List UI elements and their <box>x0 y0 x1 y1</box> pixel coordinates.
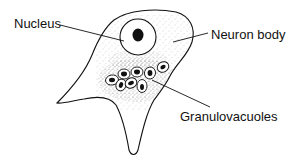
granulovacuoles-label: Granulovacuoles <box>180 110 278 123</box>
neuron-body-label: Neuron body <box>211 28 285 41</box>
nucleus-label: Nucleus <box>14 17 61 30</box>
granulovacuoles-leader-line <box>152 80 210 107</box>
nucleolus <box>133 29 144 42</box>
nucleus <box>120 19 156 55</box>
